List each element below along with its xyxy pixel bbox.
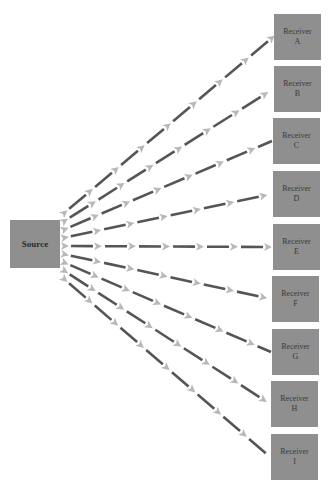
- receiver-g-node: Receiver G: [272, 329, 319, 375]
- arrowhead-icon: [162, 242, 170, 250]
- receiver-a-node: Receiver A: [274, 14, 321, 60]
- arrowhead-icon: [60, 233, 69, 242]
- receiver-e-id: E: [294, 247, 299, 257]
- receiver-e-label: Receiver: [282, 237, 310, 247]
- edge-d: [60, 191, 268, 242]
- arrowhead-icon: [246, 338, 257, 349]
- arrowhead-icon: [184, 171, 194, 181]
- edge-g: [60, 258, 271, 352]
- arrowhead-icon: [196, 243, 204, 251]
- receiver-b-id: B: [295, 89, 300, 99]
- receiver-i-label: Receiver: [280, 447, 308, 457]
- edge-c: [60, 141, 272, 234]
- receiver-c-node: Receiver C: [273, 118, 320, 164]
- arrowhead-icon: [159, 212, 168, 221]
- arrowhead-icon: [59, 266, 70, 277]
- edge-e: [61, 242, 272, 251]
- receiver-i-node: Receiver I: [271, 434, 318, 480]
- arrowhead-icon: [92, 257, 102, 267]
- receiver-e-node: Receiver E: [273, 224, 320, 270]
- arrowhead-icon: [259, 191, 268, 200]
- arrowhead-icon: [94, 242, 102, 250]
- arrowhead-icon: [215, 325, 226, 336]
- receiver-f-node: Receiver F: [272, 276, 319, 322]
- receiver-h-node: Receiver H: [271, 381, 318, 427]
- receiver-h-label: Receiver: [280, 394, 308, 404]
- arrowhead-icon: [183, 311, 194, 322]
- edge-a: [59, 32, 277, 218]
- arrowhead-icon: [225, 285, 235, 295]
- receiver-f-id: F: [293, 299, 297, 309]
- arrowhead-icon: [121, 284, 132, 295]
- receiver-a-id: A: [295, 37, 301, 47]
- arrowhead-icon: [264, 243, 272, 251]
- edge-f: [60, 250, 268, 302]
- edge-h: [59, 266, 269, 406]
- arrowhead-icon: [59, 215, 70, 226]
- arrowhead-icon: [59, 207, 70, 218]
- arrowhead-icon: [90, 271, 101, 282]
- arrowhead-icon: [60, 250, 70, 260]
- receiver-b-label: Receiver: [283, 79, 311, 89]
- edge-b: [59, 89, 270, 227]
- receiver-b-node: Receiver B: [274, 66, 321, 112]
- arrowhead-icon: [126, 264, 136, 274]
- arrowhead-icon: [246, 144, 256, 154]
- arrowhead-icon: [153, 184, 163, 194]
- broadcast-diagram: Source Receiver A Receiver B Receiver C …: [0, 0, 334, 490]
- source-label: Source: [22, 239, 48, 249]
- arrowhead-icon: [152, 298, 163, 309]
- arrowhead-icon: [230, 243, 238, 251]
- arrowhead-icon: [226, 198, 235, 207]
- receiver-f-label: Receiver: [281, 289, 309, 299]
- arrowhead-icon: [259, 293, 269, 303]
- receiver-h-id: H: [292, 404, 298, 414]
- arrowhead-icon: [60, 258, 71, 269]
- arrowhead-icon: [59, 274, 70, 285]
- receiver-c-id: C: [294, 141, 299, 151]
- arrowhead-icon: [90, 211, 100, 221]
- arrowhead-icon: [192, 205, 201, 214]
- receiver-d-label: Receiver: [282, 184, 310, 194]
- arrowhead-icon: [126, 219, 135, 228]
- edge-i: [59, 274, 266, 454]
- arrowhead-icon: [121, 198, 131, 208]
- arrowhead-icon: [93, 226, 102, 235]
- arrowhead-icon: [61, 242, 69, 250]
- arrowhead-icon: [159, 271, 169, 281]
- arrowhead-icon: [60, 224, 70, 234]
- receiver-i-id: I: [293, 457, 296, 467]
- receiver-a-label: Receiver: [283, 27, 311, 37]
- arrowhead-icon: [128, 242, 136, 250]
- receiver-d-node: Receiver D: [273, 171, 320, 217]
- source-node: Source: [10, 220, 60, 268]
- receiver-d-id: D: [294, 194, 300, 204]
- arrowhead-icon: [192, 278, 202, 288]
- receiver-c-label: Receiver: [282, 131, 310, 141]
- receiver-g-label: Receiver: [281, 342, 309, 352]
- receiver-g-id: G: [293, 352, 299, 362]
- arrowhead-icon: [215, 158, 225, 168]
